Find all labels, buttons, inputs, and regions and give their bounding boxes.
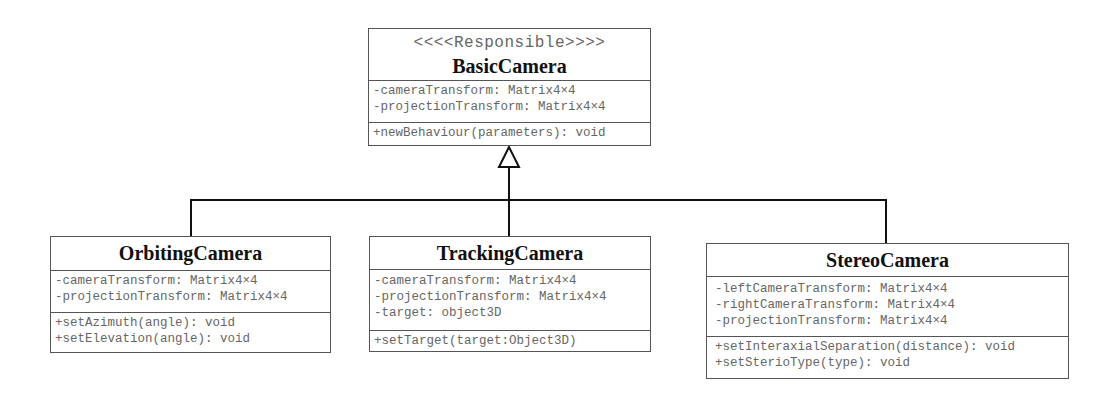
attributes-section: -cameraTransform: Matrix4×4 -projectionT…	[370, 270, 650, 331]
class-orbiting-camera[interactable]: OrbitingCamera -cameraTransform: Matrix4…	[50, 236, 331, 353]
attribute: -cameraTransform: Matrix4×4	[374, 273, 644, 289]
attribute: -projectionTransform: Matrix4×4	[373, 99, 644, 115]
class-header: TrackingCamera	[370, 237, 650, 270]
class-basic-camera[interactable]: <<<<Responsible>>>> BasicCamera -cameraT…	[368, 28, 651, 146]
attribute: -leftCameraTransform: Matrix4×4	[715, 281, 1062, 297]
attribute: -projectionTransform: Matrix4×4	[55, 289, 324, 305]
method: +setTarget(target:Object3D)	[374, 333, 644, 349]
class-name: BasicCamera	[369, 54, 650, 78]
class-stereo-camera[interactable]: StereoCamera -leftCameraTransform: Matri…	[706, 243, 1069, 379]
class-name: OrbitingCamera	[51, 241, 330, 265]
methods-section: +setInteraxialSeparation(distance): void…	[707, 337, 1068, 371]
class-name: TrackingCamera	[370, 241, 650, 265]
class-tracking-camera[interactable]: TrackingCamera -cameraTransform: Matrix4…	[369, 236, 651, 352]
class-header: <<<<Responsible>>>> BasicCamera	[369, 29, 650, 81]
class-header: StereoCamera	[707, 244, 1068, 277]
methods-section: +setTarget(target:Object3D)	[370, 331, 650, 349]
attributes-section: -cameraTransform: Matrix4×4 -projectionT…	[369, 81, 650, 123]
attribute: -projectionTransform: Matrix4×4	[374, 289, 644, 305]
methods-section: +setAzimuth(angle): void +setElevation(a…	[51, 313, 330, 347]
attribute: -projectionTransform: Matrix4×4	[715, 313, 1062, 329]
attributes-section: -cameraTransform: Matrix4×4 -projectionT…	[51, 271, 330, 313]
generalization-arrow-icon	[499, 147, 519, 167]
attribute: -cameraTransform: Matrix4×4	[55, 273, 324, 289]
method: +setInteraxialSeparation(distance): void	[715, 339, 1062, 355]
attributes-section: -leftCameraTransform: Matrix4×4 -rightCa…	[707, 277, 1068, 337]
method: +setSterioType(type): void	[715, 355, 1062, 371]
class-name: StereoCamera	[707, 248, 1068, 272]
methods-section: +newBehaviour(parameters): void	[369, 123, 650, 141]
attribute: -rightCameraTransform: Matrix4×4	[715, 297, 1062, 313]
attribute: -target: object3D	[374, 305, 644, 321]
method: +newBehaviour(parameters): void	[373, 125, 644, 141]
stereotype-label: <<<<Responsible>>>>	[369, 29, 650, 54]
attribute: -cameraTransform: Matrix4×4	[373, 83, 644, 99]
class-header: OrbitingCamera	[51, 237, 330, 271]
method: +setAzimuth(angle): void	[55, 315, 324, 331]
method: +setElevation(angle): void	[55, 331, 324, 347]
